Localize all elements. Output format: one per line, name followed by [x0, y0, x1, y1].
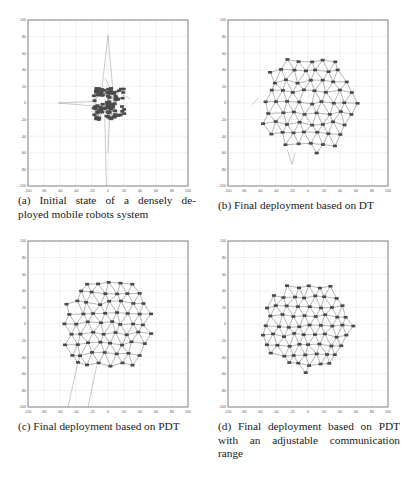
robot-node: [287, 361, 291, 364]
robot-node: [113, 103, 117, 106]
robot-node: [126, 352, 130, 355]
robot-node: [319, 100, 323, 103]
robot-node: [115, 98, 119, 101]
x-tick-label: 20: [122, 410, 126, 414]
plot-a-initial-state: -100-80-60-40-20020406080100-100-80-60-4…: [14, 14, 190, 190]
robot-node: [315, 112, 319, 115]
robot-node: [310, 103, 314, 106]
caption-a: (a) Initial state of a densely de- ploye…: [18, 194, 196, 221]
robot-node: [281, 313, 285, 316]
robot-node: [313, 69, 317, 72]
x-tick-label: -60: [57, 410, 62, 414]
caption-d-line-3: range: [218, 447, 400, 461]
robot-node: [117, 89, 121, 92]
robot-node: [292, 111, 296, 114]
robot-node: [138, 313, 142, 316]
x-tick-label: 100: [385, 189, 391, 193]
robot-node: [297, 325, 301, 328]
robot-node: [328, 113, 332, 116]
network: [62, 281, 153, 407]
robot-node: [297, 101, 301, 104]
robot-node: [338, 89, 342, 92]
x-tick-label: -20: [89, 410, 94, 414]
caption-a-line-1: (a) Initial state of a densely de-: [18, 194, 196, 208]
robot-node: [345, 81, 349, 84]
robot-node: [310, 61, 314, 64]
robot-node: [109, 87, 113, 90]
robot-node: [342, 101, 346, 104]
robot-node: [269, 133, 273, 136]
caption-c: (c) Final deployment based on PDT: [18, 420, 208, 434]
robot-node: [321, 59, 325, 62]
y-tick-label: -100: [219, 184, 226, 188]
robot-node: [327, 362, 331, 365]
robot-node: [281, 296, 285, 299]
robot-node: [274, 120, 278, 123]
robot-node: [302, 89, 306, 92]
robot-node: [84, 301, 88, 304]
robot-node: [92, 113, 96, 116]
robot-node: [130, 283, 134, 286]
robot-node: [103, 351, 107, 354]
robot-node: [120, 105, 124, 108]
robot-node: [344, 316, 348, 319]
x-tick-label: -60: [57, 189, 62, 193]
robot-node: [292, 132, 296, 135]
x-tick-label: -20: [289, 189, 294, 193]
robot-node: [96, 111, 100, 114]
x-tick-label: 60: [154, 410, 158, 414]
robot-node: [62, 323, 66, 326]
robot-node: [149, 313, 153, 316]
robot-node: [313, 295, 317, 298]
y-tick-label: 0: [24, 101, 26, 105]
y-tick-label: 60: [22, 273, 26, 277]
robot-node: [105, 115, 109, 118]
robot-node: [130, 364, 134, 367]
axes: -100-80-60-40-20020406080100-100-80-60-4…: [219, 18, 391, 193]
robot-node: [296, 82, 300, 85]
robot-node: [94, 116, 98, 119]
robot-node: [297, 343, 301, 346]
robot-node: [318, 287, 322, 290]
robot-node: [138, 292, 142, 295]
robot-node: [340, 324, 344, 327]
robot-node: [315, 353, 319, 356]
robot-node: [120, 344, 124, 347]
x-tick-label: -100: [224, 410, 231, 414]
caption-b-line-1: (b) Final deployment based on DT: [218, 199, 408, 213]
plot-c-pdt: -100-80-60-40-20020406080100-100-80-60-4…: [14, 235, 190, 411]
robot-node: [321, 143, 325, 146]
x-tick-label: -80: [241, 189, 246, 193]
y-tick-label: 20: [22, 85, 26, 89]
caption-b: (b) Final deployment based on DT: [218, 199, 408, 213]
x-tick-label: 60: [354, 410, 358, 414]
robot-node: [296, 362, 300, 365]
x-tick-label: -40: [73, 189, 78, 193]
robot-node: [285, 305, 289, 308]
robot-node: [342, 124, 346, 127]
robot-node: [336, 69, 340, 72]
robot-node: [296, 305, 300, 308]
y-tick-label: -60: [21, 151, 26, 155]
robot-node: [281, 131, 285, 134]
robot-node: [264, 101, 268, 104]
robot-node: [118, 282, 122, 285]
robot-node: [271, 333, 275, 336]
y-tick-label: 40: [222, 289, 226, 293]
robot-node: [108, 365, 112, 368]
robot-node: [307, 364, 311, 367]
robot-node: [120, 110, 124, 113]
robot-node: [118, 323, 122, 326]
robot-node: [94, 107, 98, 110]
robot-node: [99, 92, 103, 95]
y-tick-label: 40: [22, 68, 26, 72]
robot-node: [96, 283, 100, 286]
robot-node: [335, 316, 339, 319]
robot-node: [98, 109, 102, 112]
robot-node: [349, 113, 353, 116]
robot-node: [282, 335, 286, 338]
x-tick-label: -100: [24, 189, 31, 193]
robot-node: [126, 312, 130, 315]
robot-node: [297, 286, 301, 289]
y-tick-label: -100: [19, 184, 26, 188]
